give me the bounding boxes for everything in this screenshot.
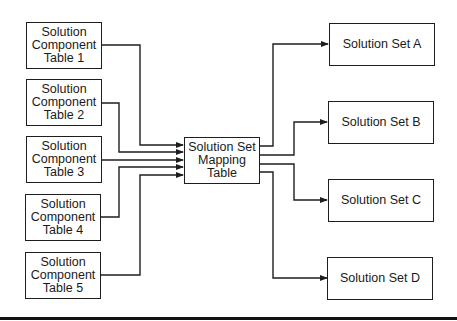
source-table-2-line3: Table 2 (32, 109, 97, 122)
target-c-label: Solution Set C (341, 194, 421, 207)
arrow-hub-to-set-c (259, 164, 327, 200)
target-d-label: Solution Set D (340, 272, 420, 285)
arrow-hub-to-set-b (259, 122, 327, 155)
target-b-label: Solution Set B (341, 116, 420, 129)
source-table-1-line3: Table 1 (32, 52, 97, 65)
source-table-3: Solution Component Table 3 (26, 136, 102, 183)
mapping-table-hub: Solution Set Mapping Table (184, 137, 260, 184)
target-solution-set-d: Solution Set D (327, 257, 433, 300)
source-table-5: Solution Component Table 5 (25, 252, 101, 299)
hub-line3: Table (188, 167, 255, 180)
target-solution-set-b: Solution Set B (328, 101, 434, 144)
target-solution-set-a: Solution Set A (329, 23, 435, 66)
arrow-table5-to-hub (101, 175, 183, 275)
source-table-3-line3: Table 3 (32, 166, 97, 179)
source-table-1: Solution Component Table 1 (26, 22, 102, 69)
arrow-table1-to-hub (101, 45, 183, 145)
bottom-rule-divider (0, 317, 457, 320)
arrow-hub-to-set-d (259, 172, 327, 278)
target-solution-set-c: Solution Set C (328, 179, 434, 222)
source-table-5-line3: Table 5 (31, 282, 96, 295)
target-a-label: Solution Set A (343, 38, 422, 51)
source-table-4: Solution Component Table 4 (25, 194, 101, 241)
source-table-2: Solution Component Table 2 (26, 79, 102, 126)
source-table-4-line3: Table 4 (31, 224, 96, 237)
